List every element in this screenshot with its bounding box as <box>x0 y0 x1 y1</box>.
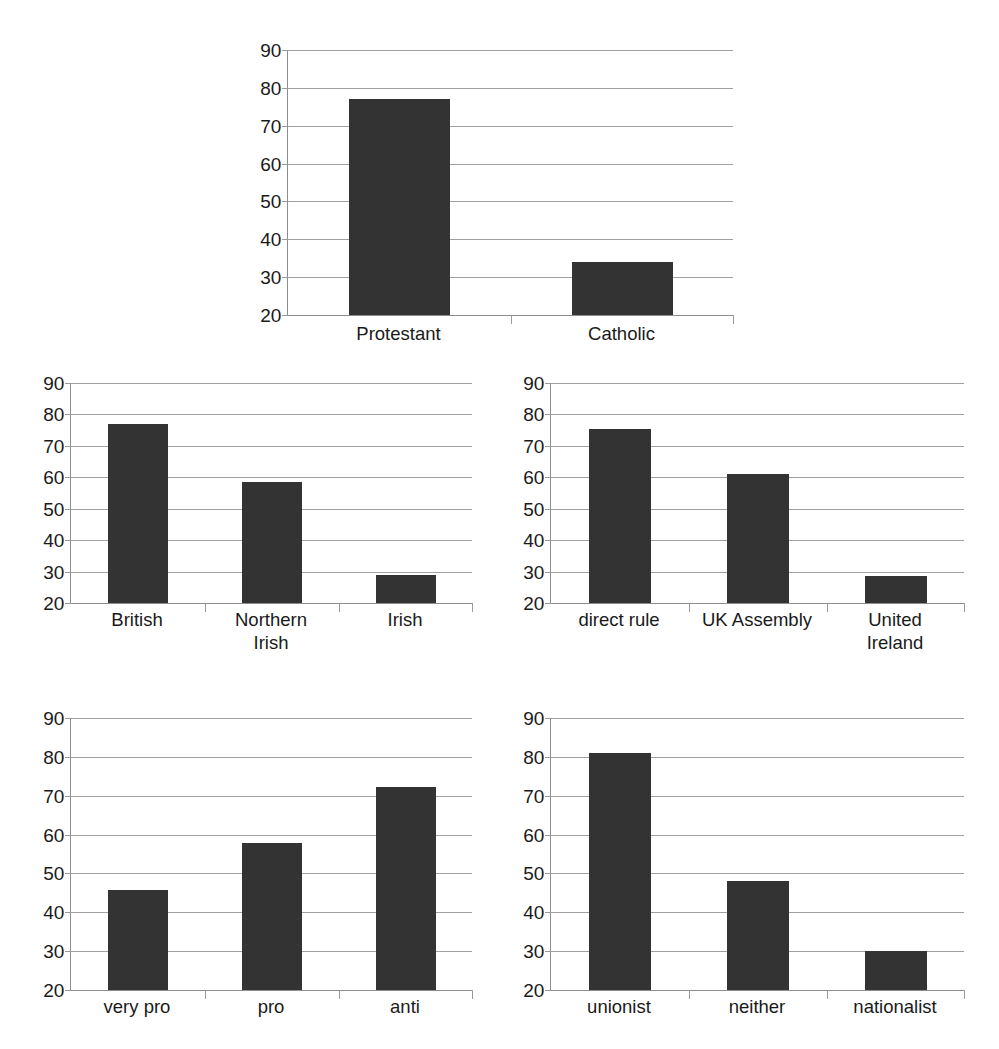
axis-end-cap <box>472 603 473 612</box>
bar-chart-political-alignment: 2030405060708090unionistneithernationali… <box>510 718 964 990</box>
y-tick-mark <box>282 201 288 202</box>
y-tick-mark <box>545 603 551 604</box>
x-tick-label: neither <box>688 995 826 1018</box>
bar <box>572 262 672 315</box>
x-tick-label: direct rule <box>550 608 688 631</box>
y-tick-label: 70 <box>523 786 544 805</box>
y-tick-label: 50 <box>523 499 544 518</box>
y-tick-mark <box>545 796 551 797</box>
y-tick-label: 90 <box>523 709 544 728</box>
y-tick-label: 40 <box>260 230 281 249</box>
y-tick-mark <box>545 509 551 510</box>
x-tick-label: Northern Irish <box>204 608 338 654</box>
y-tick-mark <box>545 572 551 573</box>
bar <box>376 575 436 603</box>
y-tick-mark <box>282 126 288 127</box>
y-tick-label: 20 <box>523 594 544 613</box>
y-tick-label: 80 <box>43 747 64 766</box>
y-tick-mark <box>545 446 551 447</box>
axis-baseline <box>551 603 964 604</box>
y-tick-label: 60 <box>523 468 544 487</box>
y-tick-mark <box>282 239 288 240</box>
y-tick-mark <box>65 603 71 604</box>
y-tick-label: 90 <box>260 41 281 60</box>
bar-chart-agreement-stance: 2030405060708090very proproanti <box>30 718 472 990</box>
y-tick-mark <box>282 50 288 51</box>
y-tick-mark <box>545 477 551 478</box>
gridline <box>551 414 964 415</box>
plot-area-agreement-stance <box>70 718 472 990</box>
y-tick-label: 30 <box>43 942 64 961</box>
y-tick-mark <box>545 540 551 541</box>
x-tick-label: anti <box>338 995 472 1018</box>
gridline <box>551 718 964 719</box>
bar <box>242 843 302 990</box>
axis-baseline <box>551 990 964 991</box>
bar <box>349 99 449 315</box>
y-tick-label: 60 <box>260 154 281 173</box>
y-axis-political-alignment: 2030405060708090 <box>510 718 550 990</box>
y-tick-mark <box>545 383 551 384</box>
bar <box>108 890 168 990</box>
y-tick-mark <box>545 873 551 874</box>
y-axis-constitutional-preference: 2030405060708090 <box>510 383 550 603</box>
gridline <box>71 414 472 415</box>
y-tick-label: 80 <box>43 405 64 424</box>
y-tick-label: 50 <box>43 864 64 883</box>
bar <box>376 787 436 990</box>
x-tick-label: United Ireland <box>826 608 964 654</box>
bar <box>727 881 789 990</box>
y-tick-mark <box>65 477 71 478</box>
x-tick-label: Irish <box>338 608 472 631</box>
axis-end-cap <box>964 990 965 999</box>
y-tick-label: 80 <box>260 78 281 97</box>
y-tick-label: 70 <box>43 786 64 805</box>
y-tick-label: 70 <box>43 436 64 455</box>
gridline <box>71 383 472 384</box>
gridline <box>288 50 733 51</box>
y-tick-mark <box>65 414 71 415</box>
x-tick-label: unionist <box>550 995 688 1018</box>
y-tick-mark <box>65 990 71 991</box>
gridline <box>71 718 472 719</box>
axis-end-cap <box>733 315 734 324</box>
y-tick-mark <box>65 951 71 952</box>
y-tick-label: 20 <box>43 594 64 613</box>
y-tick-label: 50 <box>43 499 64 518</box>
y-tick-label: 30 <box>523 562 544 581</box>
bar <box>727 474 789 603</box>
gridline <box>71 757 472 758</box>
y-tick-mark <box>65 540 71 541</box>
y-tick-label: 20 <box>260 306 281 325</box>
y-tick-label: 20 <box>523 981 544 1000</box>
y-tick-label: 60 <box>43 825 64 844</box>
y-tick-mark <box>545 718 551 719</box>
y-axis-agreement-stance: 2030405060708090 <box>30 718 70 990</box>
plot-area-national-identity <box>70 383 472 603</box>
bar <box>589 753 651 990</box>
y-tick-mark <box>545 835 551 836</box>
x-tick-label: British <box>70 608 204 631</box>
y-tick-label: 20 <box>43 981 64 1000</box>
y-tick-mark <box>545 757 551 758</box>
y-tick-mark <box>65 796 71 797</box>
x-tick-label: Catholic <box>510 322 733 345</box>
axis-end-cap <box>472 990 473 999</box>
y-tick-mark <box>65 383 71 384</box>
x-tick-label: very pro <box>70 995 204 1018</box>
axis-baseline <box>71 990 472 991</box>
y-tick-mark <box>545 990 551 991</box>
bar <box>242 482 302 603</box>
y-tick-label: 60 <box>523 825 544 844</box>
y-tick-label: 90 <box>43 709 64 728</box>
bar <box>865 951 927 990</box>
plot-area-constitutional-preference <box>550 383 964 603</box>
y-tick-label: 50 <box>260 192 281 211</box>
y-tick-label: 90 <box>523 374 544 393</box>
y-tick-label: 90 <box>43 374 64 393</box>
y-tick-label: 40 <box>523 903 544 922</box>
y-tick-mark <box>545 414 551 415</box>
bar-chart-constitutional-preference: 2030405060708090direct ruleUK AssemblyUn… <box>510 383 964 603</box>
y-tick-label: 40 <box>523 531 544 550</box>
bar <box>865 576 927 603</box>
